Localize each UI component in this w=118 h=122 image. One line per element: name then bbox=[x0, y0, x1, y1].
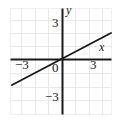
y-axis-tick-label-3: 3 bbox=[52, 16, 59, 29]
graph-figure: 3 −3 −3 3 0 y x bbox=[0, 0, 118, 122]
x-axis-tick-label-negative-3: −3 bbox=[15, 58, 29, 71]
y-axis-tick-label-negative-3: −3 bbox=[45, 90, 59, 103]
x-axis-name-label: x bbox=[99, 41, 104, 53]
origin-label: 0 bbox=[52, 61, 59, 74]
x-axis-tick-label-3: 3 bbox=[90, 58, 97, 71]
y-axis-name-label: y bbox=[66, 4, 71, 16]
